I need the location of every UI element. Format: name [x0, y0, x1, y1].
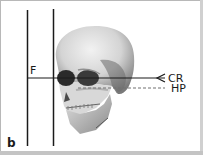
panel-label: b — [7, 137, 16, 149]
skull-illustration — [56, 26, 134, 134]
label-hp: HP — [171, 83, 186, 94]
label-f: F — [30, 65, 36, 76]
